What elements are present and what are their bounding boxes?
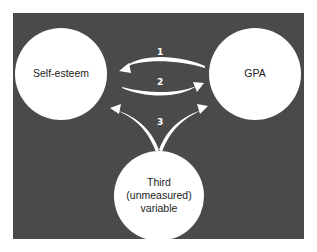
node-self-esteem-label: Self-esteem	[15, 67, 107, 80]
third-label-line-3: variable	[114, 202, 204, 215]
arrow-3-number: 3	[157, 117, 163, 127]
third-label-line-1: Third	[114, 176, 204, 189]
node-gpa-label: GPA	[209, 67, 301, 80]
arrow-1-gpa-to-self-esteem	[119, 57, 205, 73]
arrow-3-third-to-both	[110, 104, 208, 152]
arrow-2-number: 2	[157, 77, 163, 87]
arrow-1-number: 1	[157, 47, 163, 57]
node-third-variable-label: Third (unmeasured) variable	[114, 176, 204, 215]
third-label-line-2: (unmeasured)	[114, 189, 204, 202]
